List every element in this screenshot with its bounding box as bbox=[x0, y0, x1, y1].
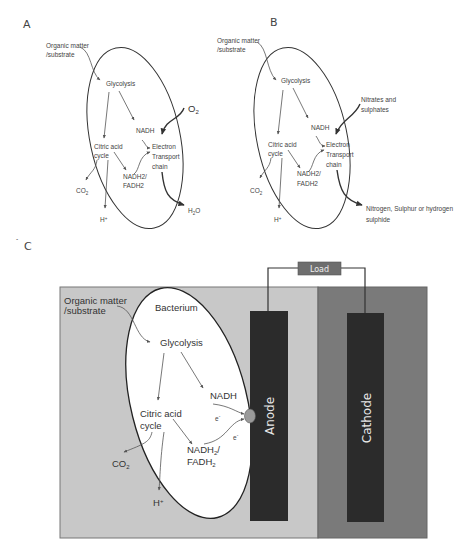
citric-c-2: cycle bbox=[140, 420, 162, 431]
citric-b-1: Citric acid bbox=[268, 141, 297, 148]
panel-b: B Organic matter /substrate Glycolysis N… bbox=[217, 16, 453, 237]
citric-a-1: Citric acid bbox=[94, 143, 123, 150]
cell-membrane-a bbox=[72, 39, 198, 238]
citric-b-2: cycle bbox=[268, 150, 283, 158]
panel-c-label: C bbox=[24, 240, 32, 253]
water-label: H2O bbox=[188, 207, 200, 216]
arrow-nadh-etc-a bbox=[142, 140, 150, 148]
nadh2-c-2: FADH2 bbox=[187, 456, 216, 468]
electron-mediator bbox=[245, 409, 256, 423]
panel-b-label: B bbox=[270, 16, 278, 29]
product-b-2: sulphide bbox=[366, 216, 391, 224]
h-plus-a: H+ bbox=[100, 216, 108, 223]
input-label-b-1: Organic matter bbox=[217, 37, 261, 45]
input-label-c-2: /substrate bbox=[64, 305, 106, 316]
bacterium-label: Bacterium bbox=[155, 302, 198, 313]
glycolysis-c: Glycolysis bbox=[160, 337, 203, 348]
arrow-acceptor-etc-b bbox=[336, 104, 360, 134]
arrow-citric-h-a bbox=[105, 160, 108, 208]
arrow-citric-h-b bbox=[279, 158, 282, 208]
oxygen-label: O2 bbox=[188, 103, 199, 115]
arrow-nadh2-etc-a bbox=[134, 152, 150, 174]
product-b-1: Nitrogen, Sulphur or hydrogen bbox=[366, 205, 453, 213]
panel-c: - C Load Anode Cathode Organic matter /s… bbox=[16, 235, 427, 538]
nadh-a: NADH bbox=[136, 127, 155, 134]
nadh2-a-2: FADH2 bbox=[123, 182, 144, 189]
acceptor-b-2: sulphates bbox=[361, 106, 390, 114]
arrow-nadh-etc-b bbox=[316, 136, 325, 146]
nadh2-b-2: FADH2 bbox=[297, 180, 318, 187]
co2-a: CO2 bbox=[76, 187, 89, 196]
anode-label: Anode bbox=[263, 397, 277, 435]
h-plus-b: H+ bbox=[274, 216, 282, 223]
nadh2-a-1: NADH2/ bbox=[123, 173, 147, 180]
nadh-b: NADH bbox=[311, 124, 330, 131]
load-label: Load bbox=[310, 265, 329, 274]
etc-b-2: Transport bbox=[326, 151, 354, 159]
arrow-glyco-nadh-a bbox=[119, 91, 134, 120]
etc-b-1: Electron bbox=[326, 141, 350, 148]
arrow-glyco-citric-b bbox=[278, 90, 283, 134]
cathode-label: Cathode bbox=[360, 393, 374, 443]
glycolysis-b: Glycolysis bbox=[281, 77, 311, 85]
etc-a-3: chain bbox=[152, 163, 168, 170]
arrow-o2-etc bbox=[162, 108, 184, 134]
citric-a-2: cycle bbox=[94, 152, 109, 160]
acceptor-b-1: Nitrates and bbox=[361, 96, 396, 103]
citric-c-1: Citric acid bbox=[140, 408, 182, 419]
nadh-c: NADH bbox=[210, 390, 237, 401]
arrow-citric-nadh2-a bbox=[114, 152, 126, 170]
arrow-nadh2-etc-b bbox=[308, 150, 324, 172]
arrow-glyco-citric-a bbox=[104, 92, 109, 138]
arrow-glyco-nadh-b bbox=[293, 88, 308, 118]
panel-a: A Organic matter /substrate Glycolysis N… bbox=[23, 18, 200, 237]
cell-membrane-b bbox=[239, 39, 365, 238]
co2-b: CO2 bbox=[250, 187, 263, 196]
glycolysis-a: Glycolysis bbox=[106, 80, 136, 88]
etc-a-1: Electron bbox=[152, 143, 176, 150]
etc-b-3: chain bbox=[326, 161, 342, 168]
input-label-b-2: /substrate bbox=[217, 46, 246, 53]
stray-mark: - bbox=[16, 235, 18, 242]
arrow-input-b bbox=[257, 42, 276, 80]
etc-a-2: Transport bbox=[152, 153, 180, 161]
figure-canvas: A Organic matter /substrate Glycolysis N… bbox=[0, 0, 460, 555]
arrow-citric-nadh2-b bbox=[288, 150, 300, 168]
panel-a-label: A bbox=[23, 18, 31, 31]
input-label-a-2: /substrate bbox=[46, 51, 75, 58]
